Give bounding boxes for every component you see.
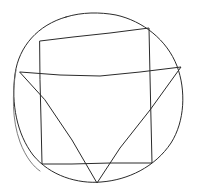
sketch-canvas: A pencil-style sketch of a circle contai… [0, 0, 198, 194]
paper-background [0, 0, 198, 194]
geometric-sketch-svg [0, 0, 198, 194]
